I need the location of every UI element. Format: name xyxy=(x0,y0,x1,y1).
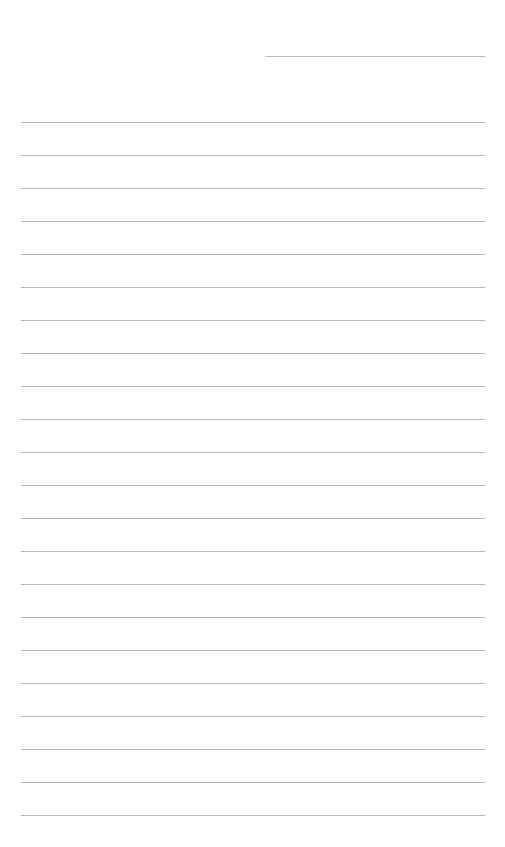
rule-06 xyxy=(21,287,485,288)
rule-08 xyxy=(21,353,485,354)
rule-05 xyxy=(21,254,485,255)
rule-17 xyxy=(21,650,485,651)
rule-22 xyxy=(21,815,485,816)
rule-10 xyxy=(21,419,485,420)
rule-09 xyxy=(21,386,485,387)
rule-16 xyxy=(21,617,485,618)
rule-20 xyxy=(21,749,485,750)
rule-13 xyxy=(21,518,485,519)
rule-15 xyxy=(21,584,485,585)
rule-01 xyxy=(21,122,485,123)
rule-04 xyxy=(21,221,485,222)
rule-02 xyxy=(21,155,485,156)
rule-19 xyxy=(21,716,485,717)
ruled-page xyxy=(0,0,505,847)
page-writing-area[interactable] xyxy=(0,0,505,847)
rule-11 xyxy=(21,452,485,453)
rule-07 xyxy=(21,320,485,321)
rule-21 xyxy=(21,782,485,783)
rule-12 xyxy=(21,485,485,486)
rule-03 xyxy=(21,188,485,189)
rule-header-partial xyxy=(266,56,485,57)
rule-14 xyxy=(21,551,485,552)
rule-18 xyxy=(21,683,485,684)
